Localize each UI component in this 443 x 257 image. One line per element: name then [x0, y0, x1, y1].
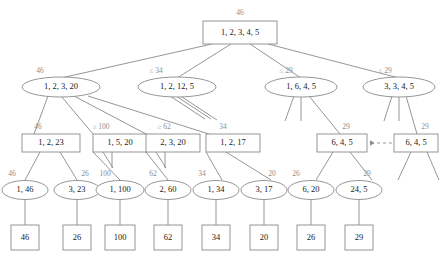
node-l3b[interactable]: 1, 5, 20 — [93, 134, 147, 152]
edge-root-l2c — [250, 44, 301, 78]
node-l3d-bound: 34 — [219, 122, 227, 131]
node-l4f-bound: 20 — [268, 169, 276, 178]
stub-l3c-1 — [156, 152, 166, 168]
stub-l2b-2 — [176, 96, 211, 119]
node-l4a-bound: 46 — [8, 169, 16, 178]
node-leaf2[interactable]: 26 — [63, 225, 91, 250]
node-leaf6[interactable]: 20 — [250, 225, 278, 250]
stub-l3f-1 — [398, 152, 411, 180]
node-l3f-bound: 29 — [421, 122, 429, 131]
node-l2d-label: 3, 3, 4, 5 — [384, 81, 414, 91]
node-l3b-label: 1, 5, 20 — [107, 137, 133, 147]
node-l3e-label: 6, 4, 5 — [331, 137, 352, 147]
edge-root-l2a — [61, 44, 212, 78]
edge-l2a-l3b — [61, 96, 93, 134]
stub-l3f-2 — [427, 152, 439, 180]
node-l4f[interactable]: 3, 17 — [241, 181, 287, 200]
node-l2a-bound: 46 — [36, 66, 44, 75]
stub-l2c-1 — [285, 96, 294, 121]
stub-l2b-3 — [182, 97, 217, 120]
node-l3e-bound: 29 — [342, 122, 350, 131]
node-l4h[interactable]: 24, 5 — [336, 181, 382, 200]
node-l3c[interactable]: 2, 3, 20 — [146, 134, 200, 152]
node-l4a-label: 1, 46 — [17, 184, 34, 194]
node-l4c-bound: 100 — [99, 169, 111, 178]
node-leaf2-label: 26 — [73, 232, 82, 242]
node-leaf8[interactable]: 29 — [345, 225, 373, 250]
node-leaf5-label: 34 — [212, 232, 221, 242]
node-l4g-bound: 26 — [292, 169, 300, 178]
node-l3d-label: 1, 2, 17 — [220, 137, 246, 147]
node-l3a-bound: 46 — [34, 122, 42, 131]
node-l4h-bound: 29 — [363, 169, 371, 178]
node-l4b-label: 3, 23 — [69, 184, 86, 194]
edges-level4-leaves — [25, 200, 359, 225]
edge-l3a-l4b — [60, 152, 77, 180]
edges-root-level2 — [61, 44, 399, 78]
node-leaf1[interactable]: 46 — [11, 225, 39, 250]
node-l2a[interactable]: 1, 2, 3, 20 — [22, 77, 100, 97]
node-l4e-label: 1, 34 — [208, 184, 226, 194]
stub-l2d-1 — [384, 96, 392, 121]
node-leaf3[interactable]: 100 — [105, 225, 135, 250]
node-leaf1-label: 46 — [21, 232, 30, 242]
edge-l2d-l3f — [406, 96, 417, 134]
node-l4g[interactable]: 6, 20 — [288, 181, 334, 200]
node-l3e[interactable]: 6, 4, 5 — [317, 134, 367, 152]
edge-l2c-l3e — [309, 96, 340, 134]
node-l4f-label: 3, 17 — [256, 184, 273, 194]
edge-l3a-l4a — [25, 152, 40, 180]
node-l4c[interactable]: 1, 100 — [96, 181, 144, 200]
node-l2c[interactable]: 1, 6, 4, 5 — [265, 77, 337, 97]
node-leaf4[interactable]: 62 — [154, 225, 182, 250]
stub-l2b-1 — [170, 96, 205, 119]
node-l4g-label: 6, 20 — [303, 184, 320, 194]
node-root-label: 1, 2, 3, 4, 5 — [221, 27, 259, 37]
node-l3a[interactable]: 1, 2, 23 — [22, 134, 80, 152]
stub-l3b-1 — [103, 152, 113, 168]
node-l4h-label: 24, 5 — [351, 184, 368, 194]
node-leaf4-label: 62 — [164, 232, 173, 242]
node-leaf5[interactable]: 34 — [202, 225, 230, 250]
node-l2c-label: 1, 6, 4, 5 — [286, 81, 316, 91]
node-l3c-bound: ≥ 62 — [157, 122, 171, 131]
node-l2c-bound: ≤ 29 — [279, 66, 293, 75]
node-l2a-label: 1, 2, 3, 20 — [44, 81, 78, 91]
tree-diagram: 1, 2, 3, 4, 5 46 1, 2, 3, 20 46 1, 2, 12… — [0, 0, 443, 257]
node-l2d-bound: ≤ 29 — [378, 66, 392, 75]
edge-root-l2b — [177, 44, 231, 78]
node-leaf6-label: 20 — [260, 232, 269, 242]
edge-l3d-l4f — [226, 152, 271, 180]
node-l4a[interactable]: 1, 46 — [2, 181, 48, 200]
node-root[interactable]: 1, 2, 3, 4, 5 — [203, 21, 277, 44]
node-l4e[interactable]: 1, 34 — [193, 181, 239, 200]
node-leaf7-label: 26 — [307, 232, 316, 242]
node-leaf3-label: 100 — [114, 232, 127, 242]
node-l4b-bound: 26 — [81, 169, 89, 178]
node-root-bound: 46 — [236, 8, 244, 17]
diagram-canvas: 1, 2, 3, 4, 5 46 1, 2, 3, 20 46 1, 2, 12… — [0, 0, 443, 257]
node-l4d-label: 2, 60 — [160, 184, 177, 194]
node-l4d[interactable]: 2, 60 — [145, 181, 191, 200]
node-l4b[interactable]: 3, 23 — [54, 181, 100, 200]
node-l4d-bound: 62 — [149, 169, 157, 178]
node-leaf8-label: 29 — [355, 232, 364, 242]
node-l3f[interactable]: 6, 4, 5 — [394, 134, 438, 152]
node-l2d[interactable]: 3, 3, 4, 5 — [363, 77, 435, 97]
node-l3c-label: 2, 3, 20 — [160, 137, 186, 147]
node-l3b-bound: ≥ 100 — [92, 122, 109, 131]
node-l2b-label: 1, 2, 12, 5 — [160, 81, 194, 91]
edge-l2a-l3c — [74, 96, 146, 134]
node-l4e-bound: 34 — [198, 169, 206, 178]
edge-l3d-l4e — [206, 152, 222, 180]
node-l3f-label: 6, 4, 5 — [405, 137, 426, 147]
node-l3a-label: 1, 2, 23 — [38, 137, 64, 147]
node-l4c-label: 1, 100 — [109, 184, 130, 194]
edge-l3e-l4g — [316, 152, 333, 180]
node-leaf7[interactable]: 26 — [297, 225, 325, 250]
node-l2b-bound: ≤ 34 — [149, 66, 163, 75]
node-l2b[interactable]: 1, 2, 12, 5 — [138, 77, 216, 97]
node-l3d[interactable]: 1, 2, 17 — [206, 134, 260, 152]
